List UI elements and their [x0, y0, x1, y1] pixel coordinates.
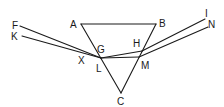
- point-label-k: K: [11, 31, 18, 42]
- ray-FX: [20, 26, 101, 58]
- point-label-i: I: [205, 8, 208, 19]
- point-label-h: H: [133, 38, 140, 49]
- point-label-f: F: [12, 20, 18, 31]
- point-label-n: N: [208, 19, 215, 30]
- point-label-l: L: [96, 63, 102, 74]
- prism-ray-diagram: ABCFKGXLHMIN: [0, 0, 224, 107]
- ray-MN: [139, 27, 208, 57]
- side-BC: [121, 24, 156, 93]
- diagram-lines: [20, 19, 208, 93]
- point-label-g: G: [97, 44, 105, 55]
- point-label-x: X: [78, 55, 85, 66]
- point-label-m: M: [141, 60, 149, 71]
- ray-KX: [22, 36, 101, 58]
- point-label-b: B: [159, 18, 166, 29]
- point-label-a: A: [70, 19, 77, 30]
- point-label-c: C: [117, 96, 124, 107]
